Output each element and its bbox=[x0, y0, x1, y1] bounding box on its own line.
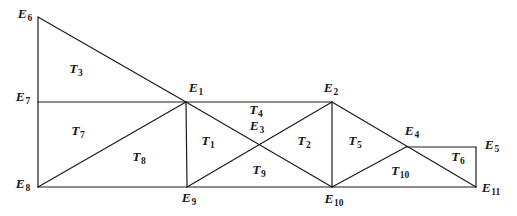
edge-E10-E4 bbox=[332, 147, 406, 187]
edge-E6-E1 bbox=[38, 17, 186, 102]
edge-E8-E1 bbox=[38, 102, 186, 187]
edge-E1-E9 bbox=[186, 102, 187, 187]
diagram-edges bbox=[0, 0, 517, 216]
triangulation-figure: E6E7E8E1E2E3E4E5E9E10E11T3T7T8T1T4T9T2T5… bbox=[0, 0, 517, 216]
edge-E2-E11 bbox=[332, 102, 476, 187]
